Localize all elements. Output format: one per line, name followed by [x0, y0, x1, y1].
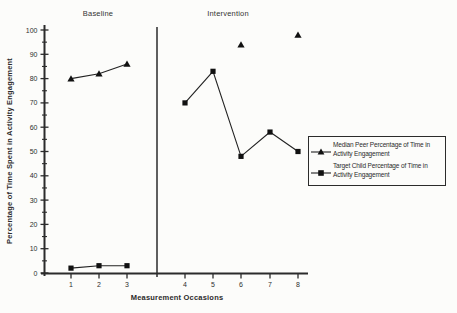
- square-marker: [295, 149, 300, 154]
- square-marker: [210, 69, 215, 74]
- x-tick-label: 4: [183, 281, 187, 288]
- legend-entry-target-child: Target Child Percentage of Time in Activ…: [311, 161, 443, 181]
- y-tick-label: 30: [30, 197, 38, 204]
- legend-entry-median-peer: Median Peer Percentage of Time in Activi…: [311, 140, 443, 160]
- legend-label-median-peer: Median Peer Percentage of Time in Activi…: [333, 140, 443, 158]
- triangle-line-marker-icon: [311, 140, 333, 160]
- square-marker: [124, 263, 129, 268]
- x-tick-label: 8: [296, 281, 300, 288]
- y-tick-label: 40: [30, 172, 38, 179]
- square-marker: [267, 129, 272, 134]
- x-tick-label: 1: [69, 281, 73, 288]
- triangle-marker: [294, 31, 301, 37]
- y-tick-label: 90: [30, 51, 38, 58]
- legend: Median Peer Percentage of Time in Activi…: [308, 136, 446, 186]
- x-axis-title: Measurement Occasions: [131, 293, 224, 302]
- chart-figure: 010203040506070809010012345678 Baseline …: [0, 0, 457, 313]
- x-tick-label: 2: [97, 281, 101, 288]
- x-tick-label: 3: [125, 281, 129, 288]
- x-tick-label: 7: [268, 281, 272, 288]
- triangle-marker: [237, 41, 244, 47]
- square-marker: [182, 100, 187, 105]
- y-tick-label: 50: [30, 148, 38, 155]
- y-tick-label: 60: [30, 124, 38, 131]
- series-line: [185, 71, 298, 156]
- y-tick-label: 100: [26, 27, 38, 34]
- y-tick-label: 0: [34, 270, 38, 277]
- y-tick-label: 70: [30, 99, 38, 106]
- triangle-marker: [123, 61, 130, 67]
- square-marker: [238, 154, 243, 159]
- y-tick-label: 20: [30, 221, 38, 228]
- y-tick-label: 80: [30, 75, 38, 82]
- x-tick-label: 5: [211, 281, 215, 288]
- square-marker: [96, 263, 101, 268]
- square-line-marker-icon: [311, 161, 333, 181]
- y-tick-label: 10: [30, 245, 38, 252]
- y-axis-title: Percentage of Time Spent in Activity Eng…: [5, 58, 14, 244]
- x-tick-label: 6: [239, 281, 243, 288]
- phase-label-intervention: Intervention: [207, 9, 249, 18]
- phase-label-baseline: Baseline: [83, 9, 113, 18]
- square-marker: [68, 266, 73, 271]
- legend-label-target-child: Target Child Percentage of Time in Activ…: [333, 161, 443, 179]
